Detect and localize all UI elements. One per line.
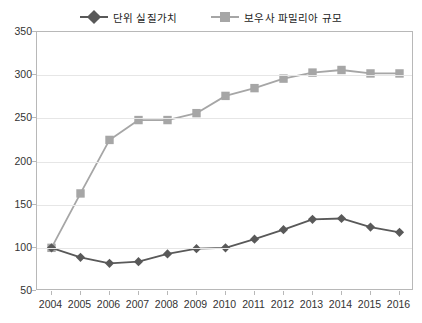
x-tick-mark bbox=[341, 291, 342, 295]
diamond-marker-icon bbox=[80, 11, 108, 23]
diamond-marker-icon bbox=[366, 223, 375, 232]
x-tick-mark bbox=[80, 291, 81, 295]
diamond-marker-icon bbox=[308, 215, 317, 224]
diamond-marker-icon bbox=[134, 257, 143, 266]
diamond-marker-icon bbox=[395, 228, 404, 237]
x-tick-mark bbox=[51, 291, 52, 295]
x-axis: 2004200520062007200820092010201120122013… bbox=[36, 291, 413, 319]
diamond-marker-icon bbox=[163, 249, 172, 258]
square-marker-icon bbox=[395, 69, 403, 77]
y-tick-label: 150 bbox=[2, 198, 32, 210]
y-tick-label: 200 bbox=[2, 155, 32, 167]
x-tick-mark bbox=[196, 291, 197, 295]
square-marker-icon bbox=[105, 136, 113, 144]
legend-symbol-series1 bbox=[87, 10, 101, 24]
line-chart: 단위 실질가치 보우사 파밀리아 규모 50100150200250300350… bbox=[0, 0, 422, 323]
legend-symbol-series2 bbox=[220, 12, 230, 22]
y-axis: 50100150200250300350 bbox=[0, 31, 32, 290]
square-marker-icon bbox=[221, 92, 229, 100]
x-tick-label: 2016 bbox=[379, 298, 419, 310]
square-marker-icon bbox=[134, 116, 142, 124]
square-marker-icon bbox=[76, 189, 84, 197]
x-tick-mark bbox=[370, 291, 371, 295]
y-tick-label: 300 bbox=[2, 68, 32, 80]
square-marker-icon bbox=[211, 11, 239, 23]
legend-item-series2[interactable]: 보우사 파밀리아 규모 bbox=[211, 10, 342, 25]
gridline bbox=[37, 118, 412, 119]
x-tick-mark bbox=[167, 291, 168, 295]
y-tick-label: 350 bbox=[2, 25, 32, 37]
x-tick-mark bbox=[138, 291, 139, 295]
y-tick-label: 100 bbox=[2, 241, 32, 253]
gridline bbox=[37, 205, 412, 206]
diamond-marker-icon bbox=[250, 235, 259, 244]
x-tick-mark bbox=[109, 291, 110, 295]
x-tick-mark bbox=[225, 291, 226, 295]
square-marker-icon bbox=[250, 84, 258, 92]
plot-area bbox=[36, 31, 413, 290]
x-tick-mark bbox=[283, 291, 284, 295]
gridline bbox=[37, 162, 412, 163]
diamond-marker-icon bbox=[105, 259, 114, 268]
x-tick-mark bbox=[254, 291, 255, 295]
y-tick-label: 50 bbox=[2, 284, 32, 296]
square-marker-icon bbox=[192, 109, 200, 117]
diamond-marker-icon bbox=[337, 214, 346, 223]
series-line bbox=[52, 218, 400, 263]
diamond-marker-icon bbox=[279, 225, 288, 234]
square-marker-icon bbox=[337, 66, 345, 74]
square-marker-icon bbox=[366, 69, 374, 77]
x-tick-mark bbox=[399, 291, 400, 295]
x-tick-mark bbox=[312, 291, 313, 295]
diamond-marker-icon bbox=[76, 253, 85, 262]
square-marker-icon bbox=[163, 116, 171, 124]
legend-label-series1: 단위 실질가치 bbox=[113, 10, 177, 25]
legend-label-series2: 보우사 파밀리아 규모 bbox=[244, 10, 342, 25]
legend-item-series1[interactable]: 단위 실질가치 bbox=[80, 10, 177, 25]
gridline bbox=[37, 248, 412, 249]
chart-legend: 단위 실질가치 보우사 파밀리아 규모 bbox=[0, 6, 422, 28]
y-tick-label: 250 bbox=[2, 111, 32, 123]
gridline bbox=[37, 75, 412, 76]
